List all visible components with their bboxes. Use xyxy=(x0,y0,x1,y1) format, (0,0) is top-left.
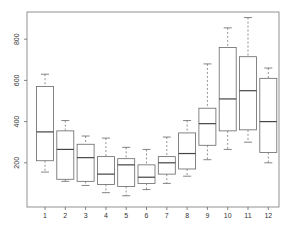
iqr-box xyxy=(158,157,175,175)
box-2 xyxy=(57,121,74,182)
box-7 xyxy=(158,137,175,183)
x-tick-label: 8 xyxy=(185,212,189,219)
box-6 xyxy=(138,149,155,189)
boxplot-chart: 200400600800 123456789101112 xyxy=(0,0,295,228)
x-axis: 123456789101112 xyxy=(43,207,272,219)
y-tick-label: 400 xyxy=(13,116,20,128)
x-tick-label: 6 xyxy=(145,212,149,219)
box-4 xyxy=(97,138,114,193)
x-tick-label: 11 xyxy=(244,212,251,219)
y-tick-label: 600 xyxy=(13,74,20,86)
iqr-box xyxy=(179,133,196,169)
iqr-box xyxy=(57,131,74,179)
iqr-box xyxy=(77,144,94,181)
y-tick-label: 200 xyxy=(13,157,20,169)
box-5 xyxy=(118,147,135,195)
y-tick-label: 800 xyxy=(13,33,20,45)
x-tick-label: 12 xyxy=(264,212,272,219)
x-tick-label: 4 xyxy=(104,212,108,219)
box-3 xyxy=(77,136,94,185)
iqr-box xyxy=(37,87,54,161)
iqr-box xyxy=(199,108,216,145)
x-tick-label: 9 xyxy=(205,212,209,219)
box-11 xyxy=(240,18,257,143)
box-series xyxy=(37,18,277,196)
y-axis: 200400600800 xyxy=(13,33,27,168)
x-tick-label: 1 xyxy=(43,212,47,219)
iqr-box xyxy=(260,78,277,152)
x-tick-label: 10 xyxy=(224,212,232,219)
box-8 xyxy=(179,121,196,177)
iqr-box xyxy=(138,165,155,184)
box-1 xyxy=(37,74,54,172)
x-tick-label: 5 xyxy=(124,212,128,219)
x-tick-label: 2 xyxy=(63,212,67,219)
box-12 xyxy=(260,68,277,163)
iqr-box xyxy=(240,57,257,130)
x-tick-label: 3 xyxy=(84,212,88,219)
iqr-box xyxy=(118,159,135,187)
iqr-box xyxy=(97,157,114,185)
box-9 xyxy=(199,64,216,160)
iqr-box xyxy=(219,47,236,130)
x-tick-label: 7 xyxy=(165,212,169,219)
box-10 xyxy=(219,28,236,150)
